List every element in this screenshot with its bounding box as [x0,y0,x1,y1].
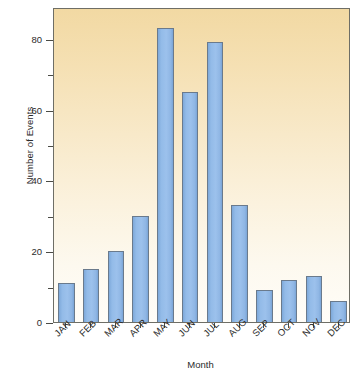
x-axis-title: Month [0,359,363,370]
bar-jun [182,92,198,322]
y-axis-title: Number of Events [24,66,35,226]
x-axis-title-text: Month [187,359,213,370]
y-tick-label-60: 60 [16,105,42,116]
bar-nov [306,276,322,322]
y-tick-label-40: 40 [16,175,42,186]
bar-aug [231,205,247,322]
y-tick-40 [46,181,53,182]
bar-jul [207,42,223,322]
y-tick-0 [46,323,53,324]
y-tick-label-0: 0 [16,317,42,328]
bar-apr [132,216,148,322]
bar-feb [83,269,99,322]
bar-jan [58,283,74,322]
y-tick-label-20: 20 [16,246,42,257]
bar-mar [108,251,124,322]
y-tick-80 [46,40,53,41]
y-tick-label-80: 80 [16,34,42,45]
bar-may [157,28,173,322]
plot-area [53,8,350,323]
y-tick-20 [46,252,53,253]
bar-chart-figure: Number of Events 020406080 JANFEBMARAPRM… [0,0,363,379]
y-tick-60 [46,111,53,112]
